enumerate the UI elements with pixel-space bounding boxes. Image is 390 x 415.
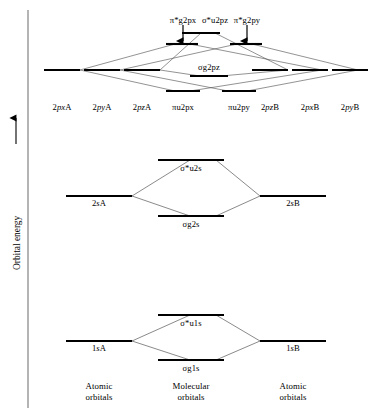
label-2pxB: 2pxB [301, 103, 320, 113]
caption-line-1: Atomic [55, 381, 143, 392]
label-2sA: 2sA [92, 199, 106, 209]
label-2pxA: 2pxA [52, 103, 71, 113]
label-1sB: 1sB [286, 344, 300, 354]
label-2pzA: 2pzA [133, 103, 152, 113]
label-1sA: 1sA [92, 344, 106, 354]
caption-atomic-orbitals-left: Atomic orbitals [55, 381, 143, 402]
label-pi-star-g-2py: π*g2py [234, 16, 260, 26]
caption-line-2: orbitals [249, 392, 337, 403]
label-2pzB: 2pzB [261, 103, 279, 113]
caption-atomic-orbitals-right: Atomic orbitals [249, 381, 337, 402]
label-2sB: 2sB [286, 199, 300, 209]
label-sigma-g-2s: σg2s [183, 220, 200, 230]
energy-axis [16, 10, 28, 408]
label-sigma-g-2pz: σg2pz [198, 63, 220, 73]
label-2pyB: 2pyB [341, 103, 360, 113]
energy-axis-label: Orbital energy [12, 216, 22, 270]
mo-diagram: Orbital energy π*g2px σ*u2pz π*g2py σg2p… [0, 0, 390, 415]
caption-molecular-orbitals-center: Molecular orbitals [147, 381, 235, 402]
caption-line-2: orbitals [55, 392, 143, 403]
caption-line-1: Atomic [249, 381, 337, 392]
label-pi-star-g-2px: π*g2px [170, 16, 196, 26]
caption-line-1: Molecular [147, 381, 235, 392]
mo-diagram-canvas [0, 0, 390, 415]
label-pi-u-2px: πu2px [172, 103, 194, 113]
label-sigma-g-1s: σg1s [183, 364, 200, 374]
caption-line-2: orbitals [147, 392, 235, 403]
label-sigma-star-u-2s: σ*u2s [180, 164, 201, 174]
label-2pyA: 2pyA [92, 103, 111, 113]
label-sigma-star-u-1s: σ*u1s [180, 319, 201, 329]
label-pi-u-2py: πu2py [228, 103, 250, 113]
label-sigma-star-u-2pz: σ*u2pz [202, 16, 228, 26]
